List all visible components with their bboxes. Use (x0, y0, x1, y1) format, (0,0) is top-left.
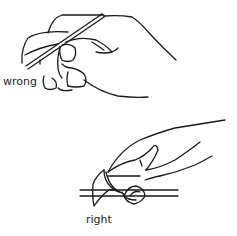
right-grip-drawing (80, 120, 225, 206)
label-wrong: wrong (3, 76, 37, 87)
label-right: right (86, 214, 112, 225)
hand-illustrations (0, 0, 237, 236)
figure-canvas: wrong right (0, 0, 237, 236)
wrong-grip-drawing (22, 14, 176, 97)
